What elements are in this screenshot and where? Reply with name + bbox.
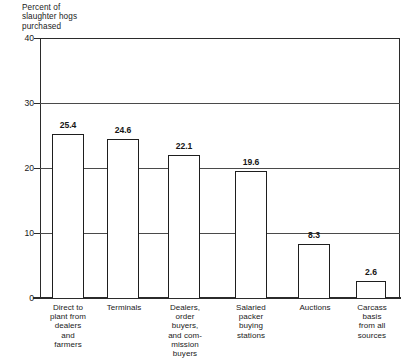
bar-direct-to-plant[interactable] [52, 134, 84, 298]
gridline-10 [40, 233, 400, 234]
bar-value-carcass-basis: 2.6 [351, 268, 391, 277]
y-tick-mark-30 [34, 103, 40, 104]
y-tick-label-40: 40 [8, 34, 34, 43]
y-tick-label-10: 10 [8, 229, 34, 238]
y-axis-title: Percent of slaughter hogs purchased [22, 3, 172, 31]
x-category-label-terminals: Terminals [95, 303, 153, 312]
y-tick-label-30: 30 [8, 99, 34, 108]
y-tick-mark-10 [34, 233, 40, 234]
y-tick-label-0: 0 [8, 294, 34, 303]
bar-terminals[interactable] [107, 139, 139, 298]
bar-auctions[interactable] [298, 244, 330, 298]
x-category-label-auctions: Auctions [286, 303, 344, 312]
y-tick-mark-40 [34, 38, 40, 39]
x-axis-line [33, 297, 401, 299]
bar-value-salaried-packer: 19.6 [231, 158, 271, 167]
bar-salaried-packer[interactable] [235, 171, 267, 298]
x-category-label-carcass-basis: Carcass basis from all sources [343, 303, 401, 340]
bar-value-terminals: 24.6 [103, 126, 143, 135]
x-category-label-salaried-packer: Salaried packer buying stations [222, 303, 280, 340]
x-category-label-dealers-order-buyers: Dealers, order buyers, and com- mission … [155, 303, 215, 358]
gridline-30 [40, 103, 400, 104]
x-category-label-direct-to-plant: Direct to plant from dealers and farmers [38, 303, 98, 349]
gridline-20 [40, 168, 400, 169]
bar-carcass-basis[interactable] [356, 281, 386, 298]
bar-dealers-order-buyers[interactable] [168, 155, 200, 298]
y-tick-label-20: 20 [8, 164, 34, 173]
bar-value-auctions: 8.3 [294, 231, 334, 240]
y-tick-mark-20 [34, 168, 40, 169]
bar-value-direct-to-plant: 25.4 [48, 121, 88, 130]
bar-value-dealers-order-buyers: 22.1 [164, 142, 204, 151]
